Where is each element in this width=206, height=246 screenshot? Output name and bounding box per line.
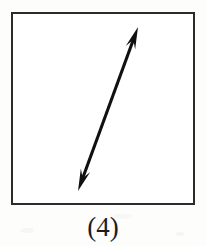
arrow-shaft — [82, 38, 134, 179]
arrow-group — [78, 27, 138, 191]
figure-page: (4) — [0, 0, 206, 246]
figure-caption: (4) — [0, 210, 206, 244]
